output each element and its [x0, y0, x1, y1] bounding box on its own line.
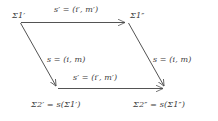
edge-label-left: s = (i, m)	[47, 56, 85, 64]
node-label-sigma1-double-prime: Σ1″	[130, 11, 144, 19]
node-label-sigma2-double-prime: Σ2″ = s(Σ1″)	[133, 100, 185, 108]
node-label-sigma2-prime: Σ2′ = s(Σ1′)	[31, 100, 81, 108]
edge-label-bottom: s′ = (i′, m′)	[73, 74, 117, 82]
diagram-canvas: Σ1′ Σ1″ Σ2′ = s(Σ1′) Σ2″ = s(Σ1″) s′ = (…	[0, 0, 218, 121]
edge-label-right: s = (i, m)	[153, 56, 191, 64]
edge-label-top: s′ = (i′, m′)	[54, 6, 98, 14]
node-label-sigma1-prime: Σ1′	[12, 11, 25, 19]
